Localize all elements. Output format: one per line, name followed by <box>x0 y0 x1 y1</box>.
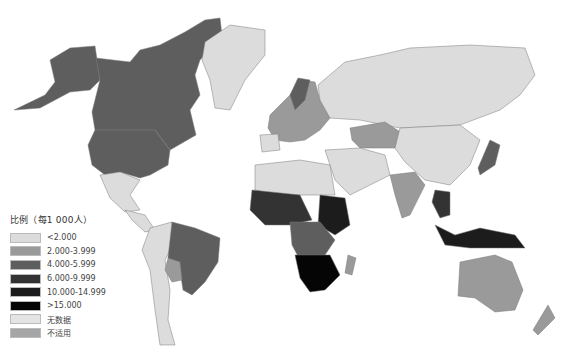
legend-item: 10.000-14.999 <box>10 285 130 299</box>
legend-swatch <box>10 246 41 256</box>
legend: 比例（每1 000人） <2.000 2.000-3.999 4.000-5.9… <box>10 213 130 340</box>
region-madagascar <box>345 255 356 275</box>
legend-swatch <box>10 287 41 297</box>
legend-swatch <box>10 233 41 243</box>
legend-swatch <box>10 328 41 338</box>
legend-swatch <box>10 274 41 284</box>
region-greenland <box>202 25 265 110</box>
region-alaska <box>14 46 100 110</box>
legend-title: 比例（每1 000人） <box>10 213 130 226</box>
legend-swatch <box>10 260 41 270</box>
region-russia <box>318 45 535 128</box>
legend-label: 不适用 <box>47 327 71 338</box>
region-usa <box>88 130 170 178</box>
legend-item: 不适用 <box>10 326 130 340</box>
region-iberia <box>260 134 280 152</box>
region-mexico <box>100 172 140 212</box>
region-australia <box>458 255 523 312</box>
region-new-zealand <box>533 305 555 335</box>
legend-item: 6.000-9.999 <box>10 272 130 286</box>
legend-label: >15.000 <box>47 301 82 310</box>
region-indonesia <box>435 225 525 248</box>
legend-item: <2.000 <box>10 231 130 245</box>
legend-label: <2.000 <box>47 233 77 242</box>
legend-item: >15.000 <box>10 299 130 313</box>
legend-label: 10.000-14.999 <box>47 288 106 297</box>
legend-item: 4.000-5.999 <box>10 258 130 272</box>
region-brazil <box>168 222 220 295</box>
region-japan <box>478 140 500 175</box>
legend-label: 6.000-9.999 <box>47 274 96 283</box>
legend-item: 无数据 <box>10 313 130 327</box>
region-india <box>390 172 425 218</box>
legend-label: 无数据 <box>47 314 71 325</box>
legend-item: 2.000-3.999 <box>10 245 130 259</box>
legend-label: 2.000-3.999 <box>47 247 96 256</box>
region-north-africa <box>255 160 335 195</box>
region-middle-east <box>325 148 390 195</box>
region-southeast-asia <box>432 190 450 218</box>
legend-label: 4.000-5.999 <box>47 260 96 269</box>
region-southern-africa <box>295 255 340 292</box>
legend-swatch <box>10 314 41 324</box>
legend-swatch <box>10 301 41 311</box>
